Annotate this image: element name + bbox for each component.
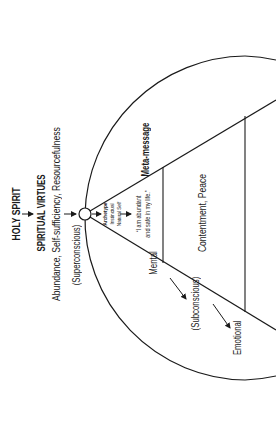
arrow-mental <box>170 278 186 299</box>
state-label: Contentment, Peace <box>196 170 208 256</box>
natural-self-line: Natural Self <box>116 191 123 238</box>
superconscious-label: (Superconscious) <box>71 220 82 290</box>
instinctual-line: Instinctual <box>109 191 116 238</box>
affirmation-line-2: and safe in my life.” <box>143 183 152 245</box>
rotated-diagram: HOLY SPIRIT SPIRITUAL VIRTUES Abundance,… <box>0 0 276 428</box>
archetype-line: Archetype <box>102 191 109 238</box>
emotional-label: Emotional <box>232 320 243 355</box>
subconscious-label: (Subconscious) <box>190 277 201 331</box>
apex-archetype-label: Archetype Instinctual Natural Self <box>102 191 123 238</box>
virtues-list: Abundance, Self-sufficiency, Resourceful… <box>50 97 62 331</box>
apex-circle <box>79 208 91 220</box>
holy-spirit-title: HOLY SPIRIT <box>10 175 22 253</box>
meta-message-label: Meta-message <box>140 123 151 177</box>
affirmation-text: “I am abundant and safe in my life.” <box>134 183 152 245</box>
arrow-emotional <box>213 304 230 328</box>
spiritual-virtues-heading: SPIRITUAL VIRTUES <box>36 155 47 272</box>
mental-label: Mental <box>148 251 159 274</box>
affirmation-line-1: “I am abundant <box>134 183 143 245</box>
